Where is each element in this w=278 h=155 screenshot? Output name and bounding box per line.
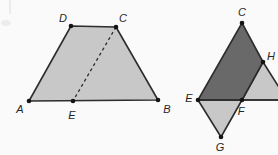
trapezoid-ABCD-with-dashed-CE-dot-C xyxy=(114,25,119,30)
diagram-svg xyxy=(0,0,278,155)
parallelogram-CEGH-with-baseline-through-F-triangle-EFG xyxy=(198,100,242,137)
scan-mark-smudge xyxy=(1,20,11,26)
trapezoid-ABCD-with-dashed-CE-dot-B xyxy=(156,98,161,103)
trapezoid-ABCD-with-dashed-CE-dot-D xyxy=(69,24,74,29)
parallelogram-CEGH-with-baseline-through-F-dot-F xyxy=(240,98,245,103)
parallelogram-CEGH-with-baseline-through-F-dot-C xyxy=(240,21,245,26)
vertex-label-H2: H xyxy=(267,51,275,62)
parallelogram-CEGH-with-baseline-through-F-dot-G xyxy=(219,135,224,140)
trapezoid-ABCD-with-dashed-CE-dot-A xyxy=(27,99,32,104)
parallelogram-CEGH-with-baseline-through-F-dot-H xyxy=(261,60,266,65)
trapezoid-ABCD-with-dashed-CE-dot-E xyxy=(71,99,76,104)
geometry-diagram-canvas: A B C D E C E F G H xyxy=(0,0,278,155)
vertex-label-G2: G xyxy=(216,142,225,153)
vertex-label-A: A xyxy=(16,104,23,115)
vertex-label-E2: E xyxy=(185,93,192,104)
vertex-label-F2: F xyxy=(238,106,245,117)
vertex-label-D: D xyxy=(59,13,67,24)
parallelogram-CEGH-with-baseline-through-F-dot-E xyxy=(196,98,201,103)
vertex-label-B: B xyxy=(163,104,170,115)
vertex-label-C: C xyxy=(119,13,127,24)
trapezoid-ABCD-with-dashed-CE-trapezoid-ADCB xyxy=(29,26,158,101)
vertex-label-C2: C xyxy=(238,7,246,18)
vertex-label-E: E xyxy=(68,110,75,121)
